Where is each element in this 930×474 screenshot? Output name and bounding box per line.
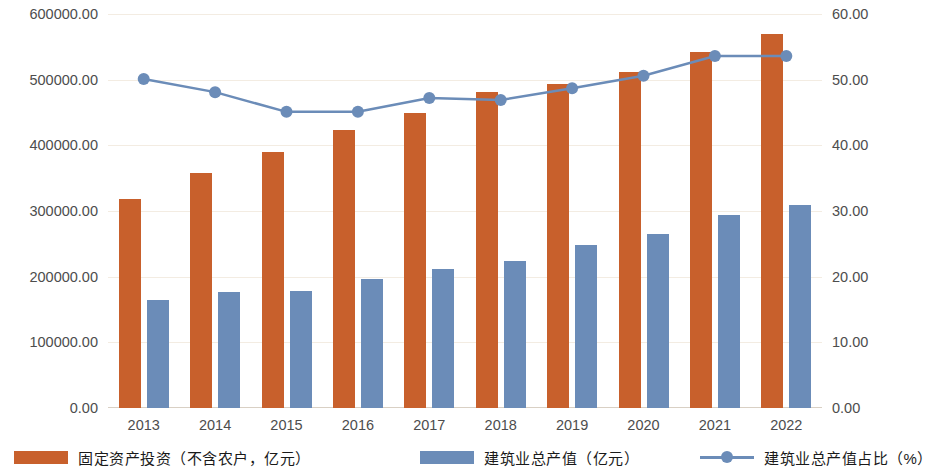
line-marker-2017 [423, 92, 435, 104]
gridline [108, 211, 822, 212]
x-axis-label-2013: 2013 [108, 414, 179, 436]
left-axis-tick-label: 0.00 [0, 401, 98, 416]
x-axis-line [108, 407, 822, 408]
line-marker-2016 [352, 106, 364, 118]
left-axis-tick-label: 100000.00 [0, 335, 98, 350]
plot-area [108, 14, 822, 408]
line-marker-2014 [209, 86, 221, 98]
chart-legend: 固定资产投资（不含农户，亿元）建筑业总产值（亿元）建筑业总产值占比（%） [0, 444, 930, 474]
bar-2016-series2 [361, 279, 383, 408]
bar-2019-series1 [547, 84, 569, 408]
left-axis-tick-label: 300000.00 [0, 204, 98, 219]
legend-item-3[interactable]: 建筑业总产值占比（%） [700, 444, 930, 470]
bar-2021-series1 [690, 52, 712, 408]
x-axis-labels: 2013201420152016201720182019202020212022 [108, 414, 822, 440]
bar-2021-series2 [718, 215, 740, 408]
bar-2020-series1 [619, 72, 641, 408]
x-axis-label-2020: 2020 [608, 414, 679, 436]
x-axis-label-2016: 2016 [322, 414, 393, 436]
x-axis-label-2022: 2022 [751, 414, 822, 436]
legend-item-label: 建筑业总产值占比（%） [764, 447, 930, 468]
legend-item-2[interactable]: 建筑业总产值（亿元） [420, 444, 639, 470]
gridline [108, 277, 822, 278]
bar-2018-series1 [476, 92, 498, 408]
legend-blue-line-circle-icon [700, 450, 754, 464]
bar-2014-series1 [190, 173, 212, 408]
legend-item-label: 固定资产投资（不含农户，亿元） [78, 447, 311, 468]
legend-item-label: 建筑业总产值（亿元） [484, 447, 639, 468]
bar-2019-series2 [575, 245, 597, 408]
bar-2020-series2 [647, 234, 669, 408]
right-axis-tick-label: 50.00 [832, 73, 922, 88]
gridline [108, 145, 822, 146]
x-axis-label-2017: 2017 [394, 414, 465, 436]
left-axis-tick-label: 600000.00 [0, 7, 98, 22]
line-marker-2015 [281, 106, 293, 118]
bar-2022-series1 [761, 34, 783, 408]
gridline [108, 14, 822, 15]
right-axis-tick-label: 40.00 [832, 138, 922, 153]
x-axis-label-2015: 2015 [251, 414, 322, 436]
bar-2016-series1 [333, 130, 355, 408]
legend-item-1[interactable]: 固定资产投资（不含农户，亿元） [14, 444, 311, 470]
bar-2014-series2 [218, 292, 240, 408]
bar-2015-series2 [290, 291, 312, 408]
bar-2017-series2 [432, 269, 454, 408]
gridline [108, 342, 822, 343]
legend-orange-square-icon [14, 451, 68, 464]
left-axis-tick-label: 500000.00 [0, 73, 98, 88]
gridline [108, 80, 822, 81]
x-axis-label-2018: 2018 [465, 414, 536, 436]
bar-2022-series2 [789, 205, 811, 408]
right-axis-tick-label: 20.00 [832, 270, 922, 285]
left-axis-tick-label: 400000.00 [0, 138, 98, 153]
chart-container: 0.00100000.00200000.00300000.00400000.00… [0, 0, 930, 474]
x-axis-label-2021: 2021 [679, 414, 750, 436]
x-axis-label-2014: 2014 [179, 414, 250, 436]
bar-2017-series1 [404, 113, 426, 409]
bar-2013-series2 [147, 300, 169, 408]
bar-2015-series1 [262, 152, 284, 408]
legend-blue-square-icon [420, 451, 474, 464]
bar-2013-series1 [119, 199, 141, 408]
x-axis-label-2019: 2019 [536, 414, 607, 436]
left-axis-tick-label: 200000.00 [0, 270, 98, 285]
right-axis-tick-label: 30.00 [832, 204, 922, 219]
bar-2018-series2 [504, 261, 526, 408]
right-axis-tick-label: 10.00 [832, 335, 922, 350]
right-axis-tick-label: 0.00 [832, 401, 922, 416]
right-axis-tick-label: 60.00 [832, 7, 922, 22]
